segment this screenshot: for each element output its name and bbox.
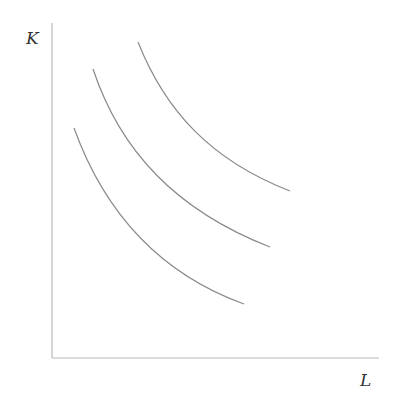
isoquant-curve-1 <box>74 128 244 304</box>
y-axis-label: K <box>25 28 40 48</box>
isoquant-curve-2 <box>93 69 270 247</box>
x-axis-label: L <box>359 370 371 390</box>
isoquant-curve-3 <box>138 42 290 191</box>
isoquant-diagram: K L <box>0 0 403 410</box>
